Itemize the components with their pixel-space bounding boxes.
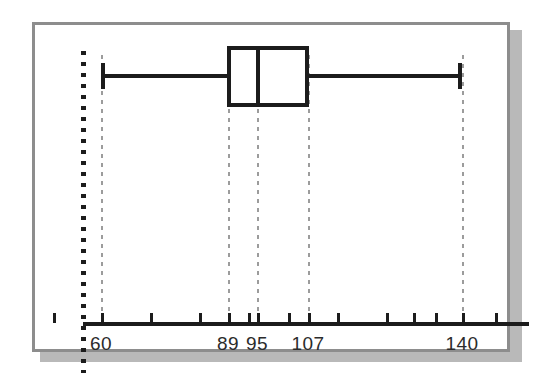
median-line <box>256 46 260 107</box>
x-axis-tick <box>288 313 291 323</box>
x-axis-tick <box>308 313 311 323</box>
tick-label-107: 107 <box>291 333 324 355</box>
x-axis-tick <box>435 313 438 323</box>
x-axis-tick <box>228 313 231 323</box>
whisker-cap-min <box>101 63 105 89</box>
x-axis-tick <box>53 313 56 323</box>
gridline-140 <box>462 55 464 321</box>
x-axis-tick <box>199 313 202 323</box>
x-axis-tick <box>462 313 465 323</box>
x-axis-tick <box>248 313 251 323</box>
whisker-cap-max <box>458 63 462 89</box>
tick-label-95: 95 <box>246 333 268 355</box>
tick-label-140: 140 <box>445 333 478 355</box>
x-axis-tick <box>257 313 260 323</box>
x-axis-tick <box>413 313 416 323</box>
interquartile-box <box>227 46 309 107</box>
x-axis-tick <box>150 313 153 323</box>
x-axis-tick <box>386 313 389 323</box>
tick-label-60: 60 <box>90 333 112 355</box>
box-plot-figure: 608995107140 <box>0 0 546 373</box>
plot-panel: 608995107140 <box>32 22 510 352</box>
x-axis-tick <box>337 313 340 323</box>
x-axis-tick <box>495 313 498 323</box>
x-axis-tick <box>101 313 104 323</box>
gridline-60 <box>101 55 103 321</box>
tick-label-89: 89 <box>217 333 239 355</box>
